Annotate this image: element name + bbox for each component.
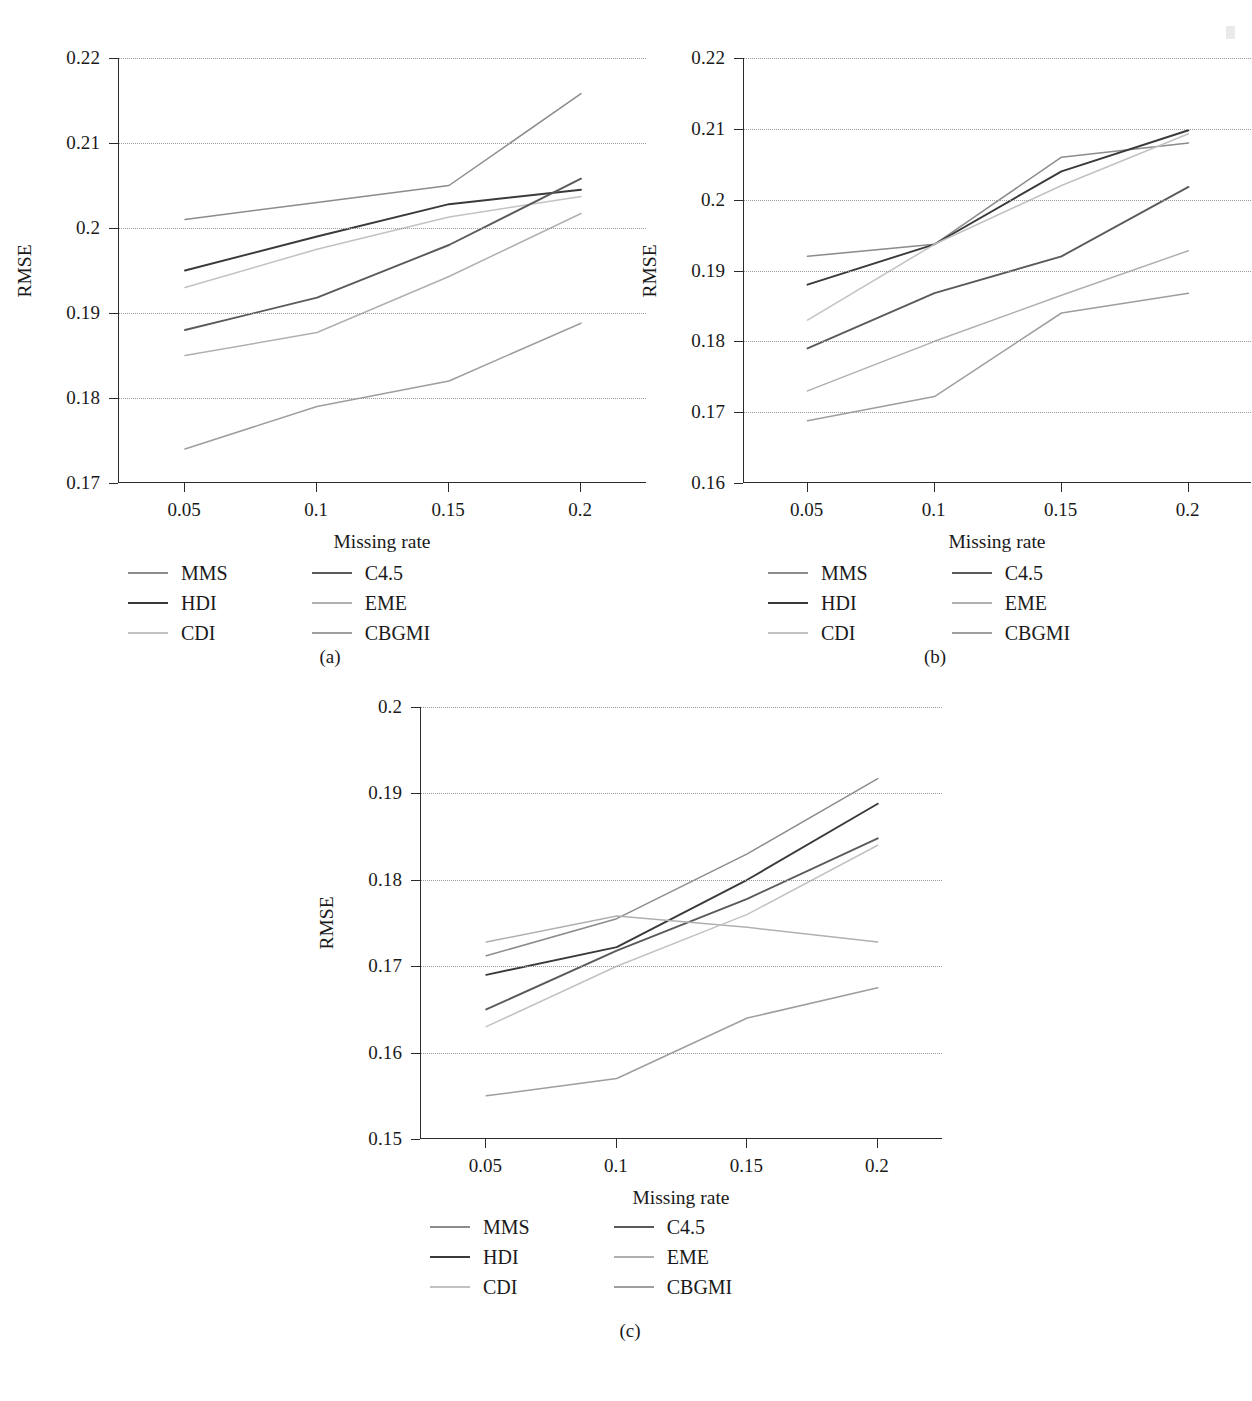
- legend-label: MMS: [821, 563, 868, 583]
- legend-line-swatch-icon: [430, 1286, 470, 1288]
- legend-line-swatch-icon: [312, 632, 352, 634]
- y-axis-tick-label: 0.21: [26, 132, 100, 154]
- gridline: [119, 58, 646, 59]
- legend-item-cdi[interactable]: CDI: [430, 1277, 530, 1297]
- x-axis-tick: [877, 1139, 878, 1148]
- series-line-c45: [808, 187, 1189, 349]
- plot-inner-c: [421, 707, 942, 1138]
- legend-line-swatch-icon: [312, 572, 352, 574]
- x-axis-tick: [485, 1139, 486, 1148]
- caption-c: (c): [619, 1320, 640, 1342]
- legend-line-swatch-icon: [430, 1256, 470, 1258]
- legend-item-eme[interactable]: EME: [614, 1247, 733, 1267]
- legend-label: HDI: [181, 593, 217, 613]
- legend-item-hdi[interactable]: HDI: [430, 1247, 530, 1267]
- legend-line-swatch-icon: [128, 632, 168, 634]
- x-axis-tick-label: 0.05: [790, 499, 823, 521]
- x-axis-tick-label: 0.2: [568, 499, 592, 521]
- y-axis-tick-label: 0.22: [26, 47, 100, 69]
- legend-c: MMSC4.5HDIEMECDICBGMI: [430, 1217, 732, 1297]
- x-axis-title-c: Missing rate: [633, 1187, 730, 1209]
- series-line-eme: [808, 251, 1189, 391]
- legend-item-mms[interactable]: MMS: [768, 563, 868, 583]
- y-axis-tick-label: 0.2: [651, 189, 725, 211]
- y-axis-tick-label: 0.15: [328, 1128, 402, 1150]
- gridline: [744, 412, 1251, 413]
- legend-label: C4.5: [667, 1217, 705, 1237]
- x-axis-tick-label: 0.2: [1176, 499, 1200, 521]
- legend-label: EME: [1005, 593, 1047, 613]
- y-axis-tick: [109, 228, 118, 229]
- series-line-hdi: [808, 130, 1189, 284]
- y-axis-tick-label: 0.21: [651, 118, 725, 140]
- legend-item-cbgmi[interactable]: CBGMI: [312, 623, 431, 643]
- plot-inner-a: [119, 58, 646, 482]
- gridline: [119, 143, 646, 144]
- y-axis-title-a: RMSE: [14, 244, 36, 297]
- x-axis-tick: [448, 483, 449, 492]
- gridline: [421, 880, 942, 881]
- legend-item-eme[interactable]: EME: [312, 593, 431, 613]
- legend-label: CBGMI: [365, 623, 431, 643]
- legend-label: C4.5: [1005, 563, 1043, 583]
- series-line-hdi: [486, 804, 878, 975]
- x-axis-tick: [1188, 483, 1189, 492]
- y-axis-tick: [109, 483, 118, 484]
- legend-item-cbgmi[interactable]: CBGMI: [614, 1277, 733, 1297]
- legend-label: CDI: [483, 1277, 517, 1297]
- legend-line-swatch-icon: [614, 1226, 654, 1228]
- legend-line-swatch-icon: [768, 602, 808, 604]
- gridline: [421, 793, 942, 794]
- legend-item-mms[interactable]: MMS: [430, 1217, 530, 1237]
- legend-item-c45[interactable]: C4.5: [312, 563, 431, 583]
- x-axis-tick-label: 0.15: [1044, 499, 1077, 521]
- y-axis-title-c: RMSE: [316, 896, 338, 949]
- legend-item-hdi[interactable]: HDI: [768, 593, 868, 613]
- series-line-cbgmi: [486, 988, 878, 1096]
- legend-item-cbgmi[interactable]: CBGMI: [952, 623, 1071, 643]
- legend-item-hdi[interactable]: HDI: [128, 593, 228, 613]
- legend-item-cdi[interactable]: CDI: [768, 623, 868, 643]
- y-axis-tick: [411, 966, 420, 967]
- legend-item-cdi[interactable]: CDI: [128, 623, 228, 643]
- x-axis-tick: [580, 483, 581, 492]
- x-axis-title-a: Missing rate: [334, 531, 431, 553]
- gridline: [744, 129, 1251, 130]
- series-line-eme: [486, 916, 878, 942]
- chart-panel-a: RMSE Missing rate 0.170.180.190.20.210.2…: [0, 18, 660, 678]
- legend-item-mms[interactable]: MMS: [128, 563, 228, 583]
- gridline: [744, 271, 1251, 272]
- y-axis-tick-label: 0.16: [651, 472, 725, 494]
- gridline: [421, 966, 942, 967]
- x-axis-tick: [184, 483, 185, 492]
- y-axis-tick-label: 0.22: [651, 47, 725, 69]
- y-axis-tick: [411, 1139, 420, 1140]
- y-axis-tick-label: 0.17: [328, 955, 402, 977]
- x-axis-tick-label: 0.15: [431, 499, 464, 521]
- legend-b: MMSC4.5HDIEMECDICBGMI: [768, 563, 1070, 643]
- x-axis-tick-label: 0.05: [167, 499, 200, 521]
- legend-line-swatch-icon: [952, 572, 992, 574]
- x-axis-tick: [616, 1139, 617, 1148]
- gridline: [421, 707, 942, 708]
- y-axis-tick-label: 0.18: [328, 869, 402, 891]
- gridline: [744, 200, 1251, 201]
- legend-item-c45[interactable]: C4.5: [614, 1217, 733, 1237]
- series-line-cbgmi: [185, 323, 581, 449]
- y-axis-tick: [411, 880, 420, 881]
- x-axis-tick-label: 0.2: [865, 1155, 889, 1177]
- legend-line-swatch-icon: [768, 632, 808, 634]
- plot-area-a: [118, 58, 646, 483]
- y-axis-tick-label: 0.18: [26, 387, 100, 409]
- gridline: [119, 313, 646, 314]
- legend-line-swatch-icon: [312, 602, 352, 604]
- y-axis-tick: [109, 143, 118, 144]
- legend-item-eme[interactable]: EME: [952, 593, 1071, 613]
- legend-line-swatch-icon: [768, 572, 808, 574]
- series-line-cdi: [808, 134, 1189, 320]
- series-layer-a: [119, 58, 647, 483]
- y-axis-tick: [109, 398, 118, 399]
- x-axis-tick-label: 0.15: [730, 1155, 763, 1177]
- legend-item-c45[interactable]: C4.5: [952, 563, 1071, 583]
